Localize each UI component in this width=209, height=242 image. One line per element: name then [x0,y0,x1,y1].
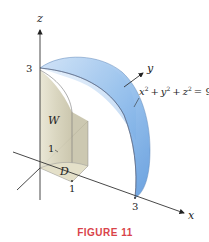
y-axis-label: y [146,62,154,75]
z-tick-3: 3 [26,63,32,74]
domain-label-D: D [59,165,69,178]
x-tick-3-dot [134,197,136,199]
y-tick-1: 1 [48,143,54,154]
x-tick-3: 3 [132,201,138,212]
equation-label: x2+y2+z2= 9 [139,85,209,97]
y-axis [17,168,40,190]
z-axis-label: z [36,12,43,25]
figure-diagram: z x y 3 3 1 1 W D x2+y2+z2= 9 FIGURE 11 [0,0,209,242]
figure-caption: FIGURE 11 [77,227,133,238]
x-tick-1: 1 [69,183,75,194]
solid-label-W: W [48,114,61,127]
x-axis-label: x [188,209,195,222]
x-axis [13,152,184,213]
x-tick-1-dot [71,180,73,182]
